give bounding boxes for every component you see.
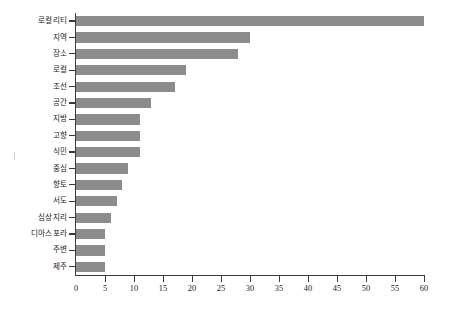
bar-row (76, 144, 424, 160)
bar (76, 32, 250, 42)
bar (76, 114, 140, 124)
category-label: 고향 (0, 132, 67, 140)
x-tick-mark (366, 276, 367, 282)
bar (76, 229, 105, 239)
category-tick-mark (69, 217, 75, 218)
category-label: 식민 (0, 148, 67, 156)
bar (76, 163, 128, 173)
x-tick-mark (250, 276, 251, 282)
x-tick-mark (395, 276, 396, 282)
category-label-slot: 로컬 (0, 62, 75, 78)
bar-row (76, 177, 424, 193)
bar-row (76, 128, 424, 144)
x-tick-label: 10 (119, 284, 149, 294)
bar-row (76, 242, 424, 258)
bar (76, 213, 111, 223)
category-label-slot: 로컬리티 (0, 13, 75, 29)
category-tick-mark (69, 168, 75, 169)
category-label: 장소 (0, 50, 67, 58)
bar (76, 147, 140, 157)
bar (76, 180, 122, 190)
plot-area (76, 13, 424, 275)
category-label-slot: 심상지리 (0, 210, 75, 226)
x-tick-label: 40 (293, 284, 323, 294)
category-label-slot: 서도 (0, 193, 75, 209)
category-label: 서도 (0, 197, 67, 205)
category-label-slot: 공간 (0, 95, 75, 111)
x-tick-label: 5 (90, 284, 120, 294)
bar-row (76, 111, 424, 127)
bar-row (76, 95, 424, 111)
category-label-axis: 로컬리티지역장소로컬조선공간지방고향식민중심향토서도심상지리디아스포라주변제주 (0, 13, 75, 275)
category-label: 향토 (0, 181, 67, 189)
bar-row (76, 29, 424, 45)
category-tick-mark (69, 53, 75, 54)
bar (76, 196, 117, 206)
category-label-slot: 지역 (0, 29, 75, 45)
category-label: 제주 (0, 263, 67, 271)
category-tick-mark (69, 250, 75, 251)
bar-row (76, 79, 424, 95)
category-tick-mark (69, 119, 75, 120)
x-axis-ticks: 051015202530354045505560 (76, 276, 424, 306)
category-label: 지역 (0, 34, 67, 42)
x-tick-label: 50 (351, 284, 381, 294)
bar-row (76, 62, 424, 78)
category-label-slot: 중심 (0, 160, 75, 176)
bar (76, 82, 175, 92)
category-tick-mark (69, 151, 75, 152)
x-tick-mark (192, 276, 193, 282)
category-tick-mark (69, 37, 75, 38)
bar-row (76, 259, 424, 275)
bar (76, 131, 140, 141)
category-label: 로컬리티 (0, 17, 67, 25)
x-tick-mark (308, 276, 309, 282)
category-label-slot: 지방 (0, 111, 75, 127)
x-tick-label: 60 (409, 284, 439, 294)
category-label: 중심 (0, 165, 67, 173)
x-tick-label: 35 (264, 284, 294, 294)
bar-row (76, 46, 424, 62)
x-tick-mark (279, 276, 280, 282)
bar (76, 49, 238, 59)
x-tick-label: 15 (148, 284, 178, 294)
category-label-slot: 식민 (0, 144, 75, 160)
x-tick-label: 45 (322, 284, 352, 294)
x-tick-label: 25 (206, 284, 236, 294)
bar (76, 245, 105, 255)
category-tick-mark (69, 201, 75, 202)
x-tick-mark (134, 276, 135, 282)
category-tick-mark (69, 102, 75, 103)
x-tick-label: 55 (380, 284, 410, 294)
bar-row (76, 226, 424, 242)
category-label-slot: 조선 (0, 79, 75, 95)
category-label: 지방 (0, 115, 67, 123)
x-tick-mark (221, 276, 222, 282)
x-tick-mark (105, 276, 106, 282)
category-label: 주변 (0, 246, 67, 254)
bar-row (76, 210, 424, 226)
category-tick-mark (69, 86, 75, 87)
category-label-slot: 고향 (0, 128, 75, 144)
bar (76, 65, 186, 75)
bar-row (76, 160, 424, 176)
bar-row (76, 13, 424, 29)
category-label: 로컬 (0, 66, 67, 74)
x-tick-label: 0 (61, 284, 91, 294)
category-label-slot: 향토 (0, 177, 75, 193)
bar-chart: 로컬리티지역장소로컬조선공간지방고향식민중심향토서도심상지리디아스포라주변제주 … (0, 0, 451, 312)
bar (76, 262, 105, 272)
category-tick-mark (69, 20, 75, 21)
x-tick-label: 20 (177, 284, 207, 294)
category-label-slot: 디아스포라 (0, 226, 75, 242)
category-label: 디아스포라 (0, 230, 67, 238)
x-tick-mark (163, 276, 164, 282)
category-tick-mark (69, 233, 75, 234)
category-label-slot: 제주 (0, 259, 75, 275)
bar (76, 16, 424, 26)
category-tick-mark (69, 266, 75, 267)
category-tick-mark (69, 70, 75, 71)
category-label: 심상지리 (0, 214, 67, 222)
category-tick-mark (69, 135, 75, 136)
x-tick-label: 30 (235, 284, 265, 294)
